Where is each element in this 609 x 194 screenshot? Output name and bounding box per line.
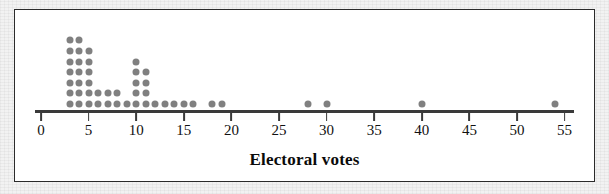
data-dot [133, 58, 140, 65]
data-dot [218, 101, 225, 108]
x-axis-tick [373, 113, 375, 121]
data-dot [95, 90, 102, 97]
x-axis-tick-label: 5 [85, 122, 93, 139]
data-dot [133, 79, 140, 86]
data-dot [180, 101, 187, 108]
data-dot [66, 69, 73, 76]
data-dot [76, 69, 83, 76]
x-axis-tick [326, 113, 328, 121]
data-dot [209, 101, 216, 108]
x-axis-tick-label: 55 [557, 122, 572, 139]
x-axis-tick-label: 10 [129, 122, 144, 139]
x-axis-tick-label: 0 [37, 122, 45, 139]
data-dot [66, 58, 73, 65]
dotplot-screenshot: 0510152025303540455055 Electoral votes [0, 0, 609, 194]
data-dot [304, 101, 311, 108]
data-dot [190, 101, 197, 108]
x-axis-tick-label: 40 [414, 122, 429, 139]
figure-frame: 0510152025303540455055 Electoral votes [14, 9, 595, 182]
data-dot [85, 90, 92, 97]
plot-area: 0510152025303540455055 Electoral votes [15, 10, 594, 181]
data-dot [66, 48, 73, 55]
data-dot [76, 48, 83, 55]
x-axis-tick-label: 45 [462, 122, 477, 139]
x-axis-tick [88, 113, 90, 121]
data-dot [114, 101, 121, 108]
data-dot [142, 101, 149, 108]
data-dot [85, 69, 92, 76]
x-axis-line [35, 110, 574, 113]
data-dot [85, 101, 92, 108]
x-axis-tick [564, 113, 566, 121]
data-dot [133, 101, 140, 108]
data-dot [76, 101, 83, 108]
x-axis-tick [468, 113, 470, 121]
x-axis-tick [183, 113, 185, 121]
data-dot [66, 101, 73, 108]
data-dot [142, 79, 149, 86]
data-dot [85, 79, 92, 86]
data-dot [552, 101, 559, 108]
data-dot [104, 90, 111, 97]
data-dot [152, 101, 159, 108]
data-dot [85, 58, 92, 65]
data-dot [76, 90, 83, 97]
data-dot [95, 101, 102, 108]
x-axis-tick-label: 25 [272, 122, 287, 139]
x-axis-tick-label: 20 [224, 122, 239, 139]
data-dot [66, 79, 73, 86]
x-axis-tick [135, 113, 137, 121]
data-dot [76, 37, 83, 44]
data-dot [66, 37, 73, 44]
data-dot [76, 58, 83, 65]
data-dot [133, 90, 140, 97]
x-axis-tick [230, 113, 232, 121]
data-dot [142, 69, 149, 76]
data-dot [418, 101, 425, 108]
data-dot [76, 79, 83, 86]
x-axis-tick-label: 15 [176, 122, 191, 139]
data-dot [133, 69, 140, 76]
data-dot [161, 101, 168, 108]
x-axis-tick-label: 50 [510, 122, 525, 139]
data-dot [123, 101, 130, 108]
data-dot [323, 101, 330, 108]
data-dot [85, 48, 92, 55]
data-dot [66, 90, 73, 97]
x-axis-tick [421, 113, 423, 121]
x-axis-tick [516, 113, 518, 121]
x-axis-tick [278, 113, 280, 121]
data-dot [142, 90, 149, 97]
data-dot [114, 90, 121, 97]
x-axis-tick [40, 113, 42, 121]
x-axis-title: Electoral votes [15, 150, 594, 170]
x-axis-tick-label: 30 [319, 122, 334, 139]
x-axis-tick-label: 35 [367, 122, 382, 139]
data-dot [171, 101, 178, 108]
data-dot [104, 101, 111, 108]
